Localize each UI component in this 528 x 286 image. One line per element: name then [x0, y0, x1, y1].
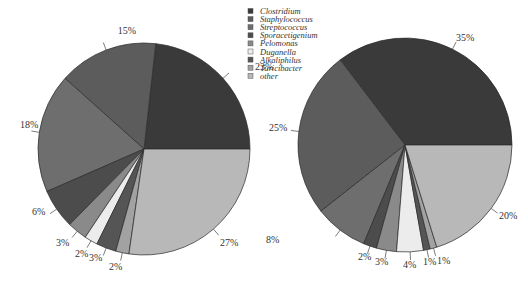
percent-label: 20% [499, 210, 517, 221]
percent-label: 2% [358, 251, 371, 262]
pie-charts: 23%15%18%6%3%2%3%2%27%35%25%8%2%3%4%1%1%… [0, 0, 528, 286]
legend-swatch [248, 49, 253, 54]
legend-label: other [260, 71, 279, 81]
percent-label: 3% [375, 256, 388, 267]
percent-label: 3% [89, 252, 102, 263]
leader-line [72, 231, 77, 237]
legend-swatch [248, 25, 253, 30]
pie-slice-clostridium [144, 44, 250, 149]
legend-swatch [248, 41, 253, 46]
legend-swatch [248, 9, 253, 14]
leader-line [87, 241, 91, 248]
percent-label: 18% [20, 119, 38, 130]
legend-swatch [248, 73, 253, 78]
legend-swatch [248, 65, 253, 70]
pie-chart-left: 23%15%18%6%3%2%3%2%27% [20, 25, 273, 272]
leader-line [491, 208, 497, 213]
leader-line [31, 131, 39, 132]
percent-label: 2% [75, 248, 88, 259]
leader-line [103, 248, 106, 256]
percent-label: 4% [403, 259, 416, 270]
leader-line [213, 229, 218, 235]
percent-label: 1% [423, 256, 436, 267]
percent-label: 15% [118, 25, 136, 36]
legend-swatch [248, 33, 253, 38]
percent-label: 2% [109, 261, 122, 272]
pie-chart-right: 35%25%8%2%3%4%1%1%20% [266, 32, 517, 270]
percent-label: 3% [56, 237, 69, 248]
leader-line [103, 43, 106, 51]
leader-line [291, 130, 299, 131]
percent-label: 6% [32, 206, 45, 217]
leader-line [223, 73, 229, 78]
leader-line [453, 42, 457, 49]
percent-label: 27% [220, 237, 238, 248]
leader-line [121, 253, 123, 261]
percent-label: 1% [437, 255, 450, 266]
leader-line [50, 209, 57, 214]
leader-line [335, 230, 340, 236]
legend-swatch [248, 17, 253, 22]
percent-label: 35% [456, 32, 474, 43]
leader-line [434, 248, 436, 256]
percent-label: 8% [266, 234, 279, 245]
legend-swatch [248, 57, 253, 62]
percent-label: 25% [269, 122, 287, 133]
